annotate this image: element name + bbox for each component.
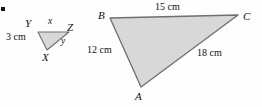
vertex-label-x: X <box>42 52 49 63</box>
figure-canvas <box>0 0 262 107</box>
side-label-12cm: 12 cm <box>87 45 112 55</box>
side-label-15cm: 15 cm <box>155 2 180 12</box>
geometry-figure: Y Z X x y 3 cm B C A 15 cm 12 cm 18 cm <box>0 0 262 107</box>
vertex-label-y: Y <box>25 18 31 29</box>
vertex-label-c: C <box>243 11 250 22</box>
side-label-x: x <box>48 17 52 27</box>
vertex-label-b: B <box>98 10 105 21</box>
side-label-18cm: 18 cm <box>197 48 222 58</box>
vertex-label-z: Z <box>67 22 73 33</box>
vertex-label-a: A <box>135 91 142 102</box>
side-label-3cm: 3 cm <box>6 32 26 42</box>
side-label-y: y <box>61 37 65 47</box>
